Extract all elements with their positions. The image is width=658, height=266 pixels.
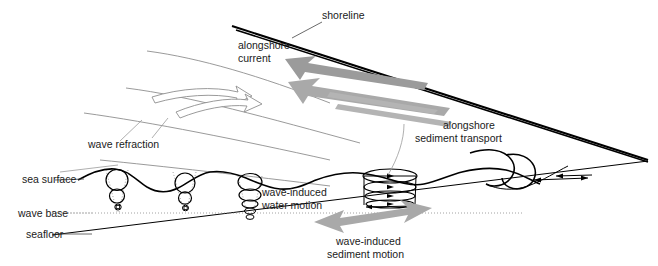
refraction-crest-3 xyxy=(84,113,330,160)
gray-streak-1 xyxy=(327,92,438,114)
orbit1-circle-2 xyxy=(110,189,125,203)
sediment-motion-arrow-shape xyxy=(314,200,432,233)
leader-lines xyxy=(52,22,404,234)
alongshore-gray-streaks xyxy=(327,92,452,127)
swash-arrow-head-left-2 xyxy=(556,174,563,179)
orbital-column-2 xyxy=(173,172,196,212)
breaking-wave-curl-outer xyxy=(502,154,535,189)
seafloor-label: seafloor xyxy=(26,228,64,240)
orbit1-circle-1 xyxy=(106,170,128,191)
hollow-arrow-lower xyxy=(176,94,262,118)
orbit2-circle-1 xyxy=(175,173,195,193)
orbital-column-1 xyxy=(106,170,128,213)
orbit4-right-rule xyxy=(415,176,416,205)
wave-induced-water-label-line2: water motion xyxy=(261,199,322,211)
alongshore-sediment-leader xyxy=(388,124,404,175)
orbit1-square-marker xyxy=(116,205,119,208)
wave-base-label: wave base xyxy=(17,207,68,219)
orbit3-ellipse-5 xyxy=(246,215,254,220)
swash-arrow-head-right xyxy=(581,176,588,181)
shoreline-label: shoreline xyxy=(322,9,365,21)
swash-zone-double-arrow xyxy=(534,174,592,183)
breaking-wave-curl xyxy=(470,150,568,189)
orbit4-arrow-2 xyxy=(387,185,394,189)
orbit4-arrow-4 xyxy=(387,202,394,206)
diagram-canvas: shoreline alongshore current alongshore … xyxy=(0,0,658,266)
coastal-processes-diagram: shoreline alongshore current alongshore … xyxy=(0,0,658,266)
sea-surface-label: sea surface xyxy=(22,173,76,185)
orbit4-arrow-3 xyxy=(387,194,394,198)
wave-refraction-leader-2 xyxy=(152,118,168,138)
wave-refraction-label: wave refraction xyxy=(87,138,159,150)
alongshore-sediment-label-line1: alongshore xyxy=(443,119,495,131)
alongshore-current-label-line2: current xyxy=(238,52,271,64)
shoreline-leader xyxy=(292,22,322,38)
orbit1-guide-right xyxy=(119,170,128,212)
wave-induced-sediment-label-line2: sediment motion xyxy=(327,248,404,260)
orbit2-square-marker xyxy=(184,207,187,210)
wave-induced-water-label-line1: wave-induced xyxy=(261,186,327,198)
refraction-crest-4 xyxy=(100,160,330,186)
alongshore-current-label-line1: alongshore xyxy=(238,39,290,51)
orbit1-circle-3 xyxy=(115,204,121,210)
swash-arrow-shaft xyxy=(534,178,588,180)
wave-induced-sediment-motion-arrow xyxy=(314,200,432,233)
alongshore-sediment-label-line2: sediment transport xyxy=(415,132,502,144)
wave-approach-hollow-arrow xyxy=(152,86,262,118)
wave-induced-sediment-label-line1: wave-induced xyxy=(335,235,401,247)
